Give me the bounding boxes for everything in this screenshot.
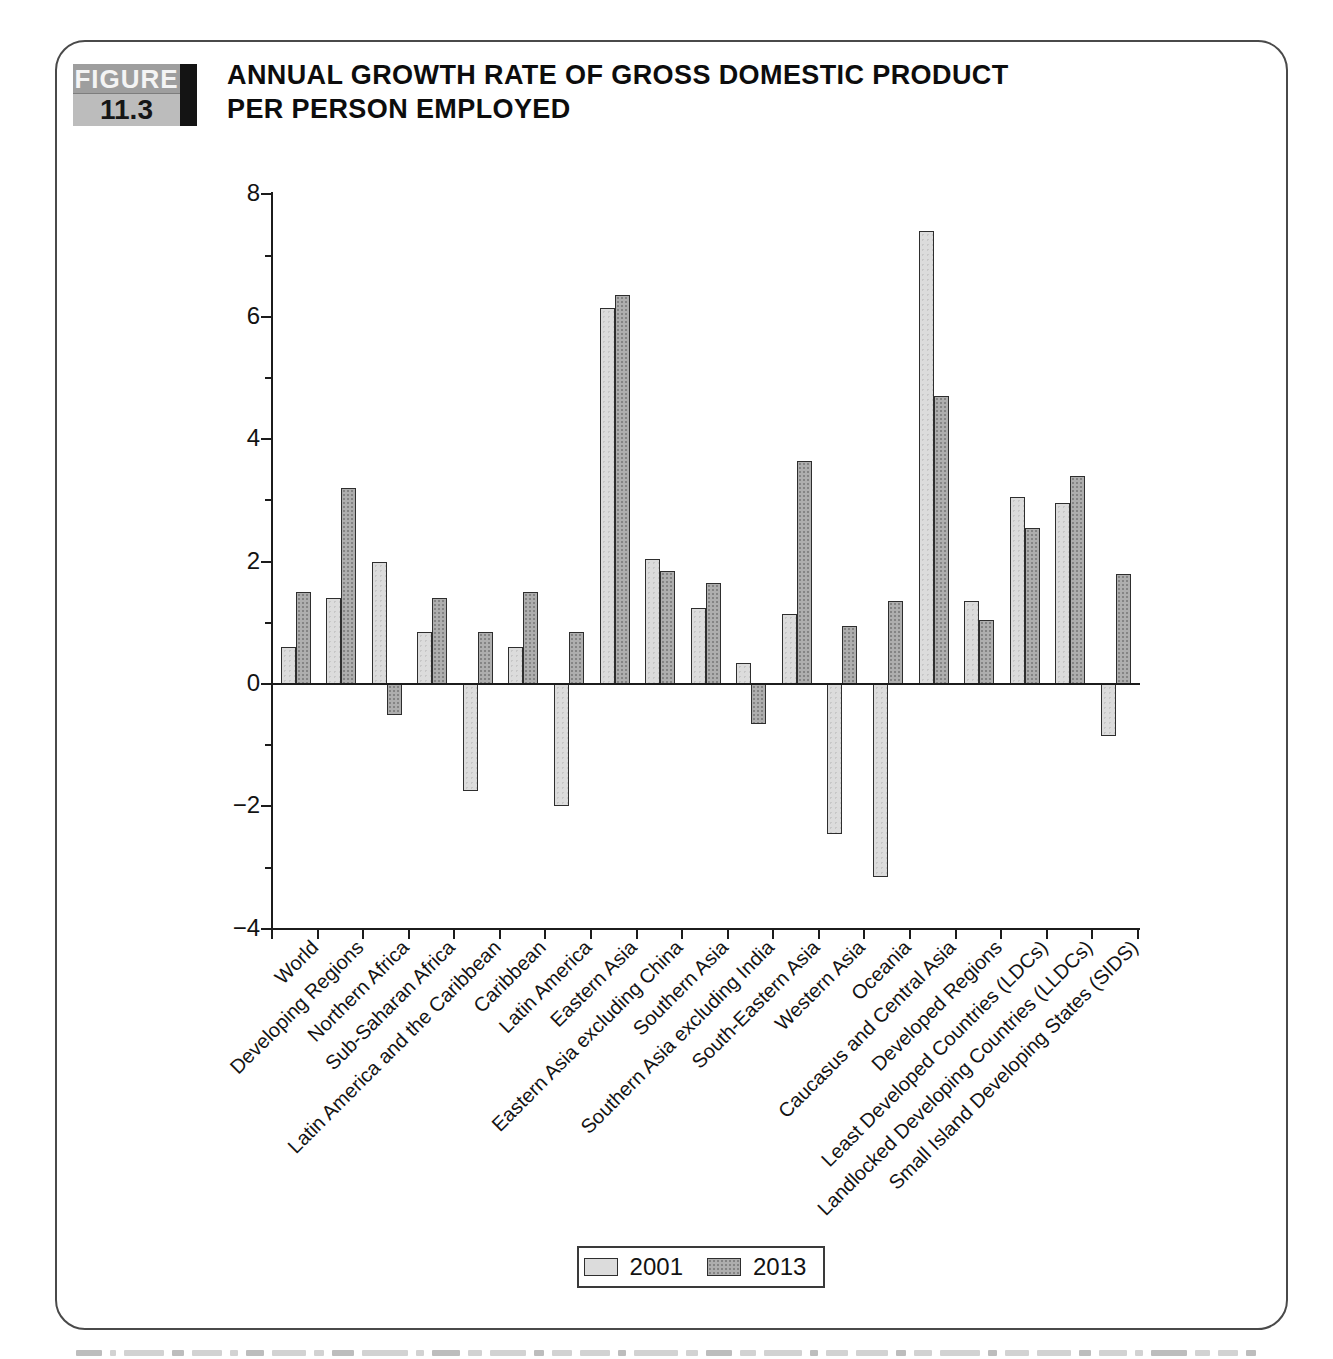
bar-2001 — [372, 562, 387, 684]
bar-2001 — [1010, 497, 1025, 684]
bar-2013 — [1025, 528, 1040, 684]
bar-2001 — [1101, 684, 1116, 736]
bar-2013 — [1070, 476, 1085, 684]
bar-2013 — [660, 571, 675, 684]
bar-2013 — [569, 632, 584, 684]
y-axis-minor-tick — [265, 499, 271, 501]
legend-swatch-2013 — [707, 1258, 741, 1276]
x-axis-tick — [772, 930, 774, 939]
x-axis-tick — [408, 930, 410, 939]
bar-chart: 86420−2−4WorldDeveloping RegionsNorthern… — [0, 0, 1333, 1359]
bar-2001 — [600, 308, 615, 684]
x-axis-tick — [499, 930, 501, 939]
y-axis-minor-tick — [265, 744, 271, 746]
legend-swatch-2001 — [584, 1258, 618, 1276]
bar-2001 — [326, 598, 341, 684]
bar-2001 — [736, 663, 751, 684]
x-axis-tick — [1000, 930, 1002, 939]
bar-2001 — [281, 647, 296, 684]
bar-2001 — [1055, 503, 1070, 684]
y-axis-line — [271, 192, 273, 930]
x-axis-line — [271, 928, 1140, 930]
legend-label: 2013 — [753, 1253, 806, 1281]
bar-2013 — [523, 592, 538, 684]
bar-2013 — [706, 583, 721, 684]
bar-2013 — [478, 632, 493, 684]
y-axis-tick-label: −4 — [0, 914, 260, 942]
y-axis-tick-label: 8 — [0, 179, 260, 207]
y-axis-tick-label: −2 — [0, 791, 260, 819]
bar-2001 — [554, 684, 569, 806]
x-axis-tick — [590, 930, 592, 939]
chart-legend: 20012013 — [577, 1246, 825, 1288]
y-axis-major-tick — [261, 438, 271, 440]
y-axis-minor-tick — [265, 622, 271, 624]
bar-2001 — [873, 684, 888, 877]
bar-2001 — [645, 559, 660, 684]
bar-2013 — [842, 626, 857, 684]
y-axis-major-tick — [261, 683, 271, 685]
x-axis-tick — [544, 930, 546, 939]
x-axis-tick — [1091, 930, 1093, 939]
x-axis-tick — [681, 930, 683, 939]
bar-2013 — [1116, 574, 1131, 684]
y-axis-minor-tick — [265, 867, 271, 869]
bar-2001 — [827, 684, 842, 834]
y-axis-tick-label: 4 — [0, 424, 260, 452]
x-axis-tick — [818, 930, 820, 939]
y-axis-major-tick — [261, 316, 271, 318]
x-axis-tick — [1046, 930, 1048, 939]
x-axis-tick — [453, 930, 455, 939]
x-axis-tick — [317, 930, 319, 939]
y-axis-major-tick — [261, 805, 271, 807]
bar-2013 — [296, 592, 311, 684]
bar-2001 — [508, 647, 523, 684]
bar-2013 — [387, 684, 402, 715]
y-axis-tick-label: 0 — [0, 669, 260, 697]
y-axis-minor-tick — [265, 255, 271, 257]
bar-2001 — [964, 601, 979, 684]
bar-2001 — [919, 231, 934, 684]
y-axis-major-tick — [261, 928, 271, 930]
x-axis-tick — [636, 930, 638, 939]
x-axis-tick — [362, 930, 364, 939]
x-axis-tick — [955, 930, 957, 939]
x-axis-tick — [271, 930, 273, 939]
bar-2001 — [463, 684, 478, 791]
bar-2013 — [797, 461, 812, 684]
y-axis-major-tick — [261, 193, 271, 195]
bar-2013 — [979, 620, 994, 684]
y-axis-tick-label: 6 — [0, 302, 260, 330]
zero-baseline — [271, 683, 1140, 685]
x-axis-tick — [727, 930, 729, 939]
x-axis-tick — [1137, 930, 1139, 939]
x-axis-tick — [909, 930, 911, 939]
bar-2013 — [615, 295, 630, 684]
bar-2001 — [782, 614, 797, 684]
clipped-caption-text-tops — [76, 1350, 1286, 1359]
y-axis-major-tick — [261, 561, 271, 563]
bar-2013 — [432, 598, 447, 684]
legend-label: 2001 — [630, 1253, 683, 1281]
bar-2013 — [751, 684, 766, 724]
bar-2001 — [691, 608, 706, 685]
y-axis-minor-tick — [265, 377, 271, 379]
bar-2001 — [417, 632, 432, 684]
bar-2013 — [934, 396, 949, 684]
x-axis-tick — [863, 930, 865, 939]
y-axis-tick-label: 2 — [0, 547, 260, 575]
bar-2013 — [888, 601, 903, 684]
bar-2013 — [341, 488, 356, 684]
